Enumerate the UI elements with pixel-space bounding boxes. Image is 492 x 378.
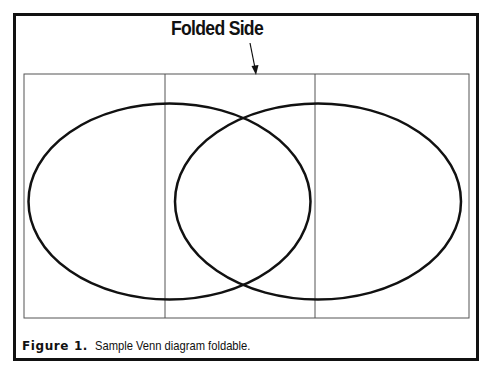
figure-caption: Figure 1. Sample Venn diagram foldable. [22,338,275,353]
venn-foldable-diagram [0,0,492,378]
venn-circle-left [29,104,311,300]
arrow-icon [250,43,259,75]
venn-circle-right [175,104,461,300]
caption-text: Sample Venn diagram foldable. [95,338,250,353]
caption-label: Figure 1. [22,339,88,353]
